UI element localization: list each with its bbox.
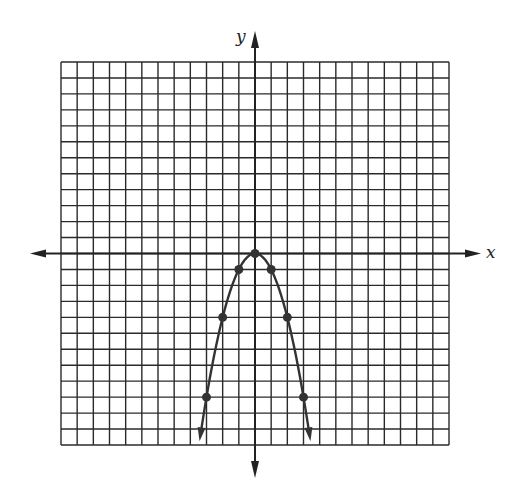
- data-point: [251, 249, 260, 258]
- data-point: [218, 313, 227, 322]
- data-point: [202, 393, 211, 402]
- x-axis-arrow-left: [30, 250, 46, 258]
- x-axis-label: x: [486, 242, 496, 262]
- curve-arrow-right: [304, 427, 312, 441]
- data-point: [299, 393, 308, 402]
- x-axis-arrow-right: [465, 250, 481, 258]
- y-axis-arrow-up: [251, 31, 259, 48]
- y-axis-arrow-down: [251, 461, 259, 478]
- data-point: [267, 265, 276, 274]
- parabola-graph: x y: [0, 0, 521, 503]
- data-point: [234, 265, 243, 274]
- y-axis-label: y: [235, 26, 246, 46]
- data-point: [283, 313, 292, 322]
- curve-arrow-left: [198, 427, 206, 441]
